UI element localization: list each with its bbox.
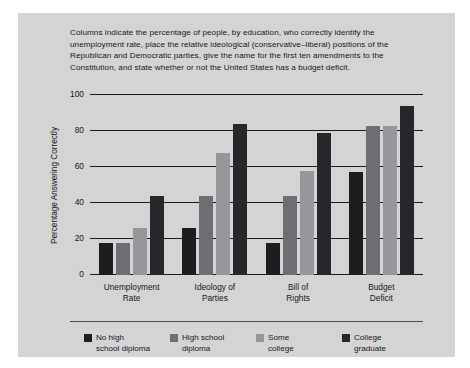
bar[interactable] xyxy=(400,106,414,275)
legend-label: High schooldiploma xyxy=(182,333,236,354)
legend-item[interactable]: No highschool diploma xyxy=(84,333,150,354)
legend-label-line: diploma xyxy=(182,344,236,355)
bar[interactable] xyxy=(266,243,280,275)
x-tick-label: Bill ofRights xyxy=(286,282,310,304)
bar[interactable] xyxy=(383,126,397,275)
x-tick-label-line: Ideology of xyxy=(195,282,236,293)
x-tick-label-line: Unemployment xyxy=(104,282,160,293)
legend-swatch-icon xyxy=(84,334,92,342)
legend-label-line: College xyxy=(354,333,408,344)
bar-group: Bill ofRights xyxy=(257,95,340,275)
bar[interactable] xyxy=(317,133,331,275)
plot-area: 020406080100 UnemploymentRateIdeology of… xyxy=(90,95,423,275)
legend-swatch-icon xyxy=(256,334,264,342)
bar[interactable] xyxy=(182,228,196,275)
x-tick-label-line: Bill of xyxy=(286,282,310,293)
legend-label-line: No high xyxy=(96,333,150,344)
legend: No highschool diplomaHigh schooldiplomaS… xyxy=(84,333,408,354)
y-axis-title-text: Percentage Answering Correctly xyxy=(50,127,59,244)
legend-label: Somecollege xyxy=(268,333,322,354)
x-tick-label: BudgetDeficit xyxy=(368,282,394,304)
x-tick-label-line: Deficit xyxy=(368,293,394,304)
y-tick-label: 60 xyxy=(75,161,84,171)
x-tick-label-line: Rate xyxy=(104,293,160,304)
x-tick-label-line: Budget xyxy=(368,282,394,293)
y-tick-label: 80 xyxy=(75,125,84,135)
legend-label: Collegegraduate xyxy=(354,333,408,354)
y-tick-label: 20 xyxy=(75,233,84,243)
y-tick-label: 100 xyxy=(70,89,84,99)
y-tick-label: 0 xyxy=(79,269,84,279)
x-tick-label-line: Parties xyxy=(195,293,236,304)
bar[interactable] xyxy=(349,172,363,275)
legend-swatch-icon xyxy=(170,334,178,342)
bar[interactable] xyxy=(133,228,147,275)
legend-label: No highschool diploma xyxy=(96,333,150,354)
legend-swatch-icon xyxy=(342,334,350,342)
legend-item[interactable]: Collegegraduate xyxy=(342,333,408,354)
legend-label-line: college xyxy=(268,344,322,355)
bar[interactable] xyxy=(283,196,297,275)
legend-label-line: school diploma xyxy=(96,344,150,355)
bar-group: UnemploymentRate xyxy=(90,95,173,275)
bar[interactable] xyxy=(116,243,130,275)
bar[interactable] xyxy=(99,243,113,275)
y-tick-label: 40 xyxy=(75,197,84,207)
bar-group: Ideology ofParties xyxy=(173,95,256,275)
x-tick-label: UnemploymentRate xyxy=(104,282,160,304)
y-axis-title: Percentage Answering Correctly xyxy=(48,95,60,275)
figure-caption: Columns indicate the percentage of peopl… xyxy=(70,27,430,73)
bar[interactable] xyxy=(150,196,164,275)
legend-item[interactable]: Somecollege xyxy=(256,333,322,354)
x-tick-label: Ideology ofParties xyxy=(195,282,236,304)
bar-group: BudgetDeficit xyxy=(340,95,423,275)
bar[interactable] xyxy=(199,196,213,275)
legend-label-line: Some xyxy=(268,333,322,344)
legend-item[interactable]: High schooldiploma xyxy=(170,333,236,354)
legend-divider xyxy=(70,321,423,322)
bar[interactable] xyxy=(366,126,380,275)
bar-groups: UnemploymentRateIdeology ofPartiesBill o… xyxy=(90,95,423,275)
bar[interactable] xyxy=(300,171,314,275)
x-tick-label-line: Rights xyxy=(286,293,310,304)
bar[interactable] xyxy=(216,153,230,275)
legend-label-line: graduate xyxy=(354,344,408,355)
bar[interactable] xyxy=(233,124,247,275)
legend-label-line: High school xyxy=(182,333,236,344)
figure-panel: Columns indicate the percentage of peopl… xyxy=(18,13,455,357)
